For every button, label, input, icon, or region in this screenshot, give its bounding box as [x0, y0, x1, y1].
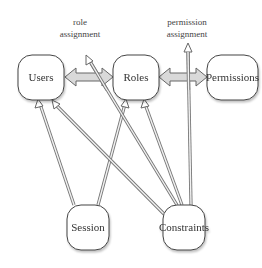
- node-users-label: Users: [28, 71, 53, 83]
- label-role-assignment-line1: role: [73, 17, 87, 27]
- edge-constraints-roles: [141, 99, 182, 205]
- node-session-label: Session: [71, 221, 105, 233]
- node-permissions-label: Permissions: [206, 71, 259, 83]
- node-constraints: Constraints: [159, 205, 209, 250]
- rbac-diagram: Users Roles Permissions Session Constrai…: [0, 0, 262, 268]
- label-role-assignment-line2: assignment: [60, 29, 101, 39]
- label-permission-assignment-line2: assignment: [167, 29, 208, 39]
- edge-roles-permissions-permission-assignment: [159, 68, 207, 86]
- edge-session-users: [35, 99, 74, 205]
- edge-users-roles-role-assignment: [65, 68, 113, 86]
- node-constraints-label: Constraints: [159, 221, 209, 233]
- label-role-assignment: role assignment: [60, 17, 101, 39]
- label-permission-assignment-line1: permission: [167, 17, 207, 27]
- node-roles-label: Roles: [123, 71, 148, 83]
- label-permission-assignment: permission assignment: [167, 17, 208, 39]
- permission-assignment-line-overlay: [188, 52, 189, 90]
- node-users: Users: [18, 55, 64, 100]
- node-session: Session: [67, 205, 109, 250]
- node-permissions: Permissions: [206, 55, 259, 100]
- node-roles: Roles: [113, 55, 159, 100]
